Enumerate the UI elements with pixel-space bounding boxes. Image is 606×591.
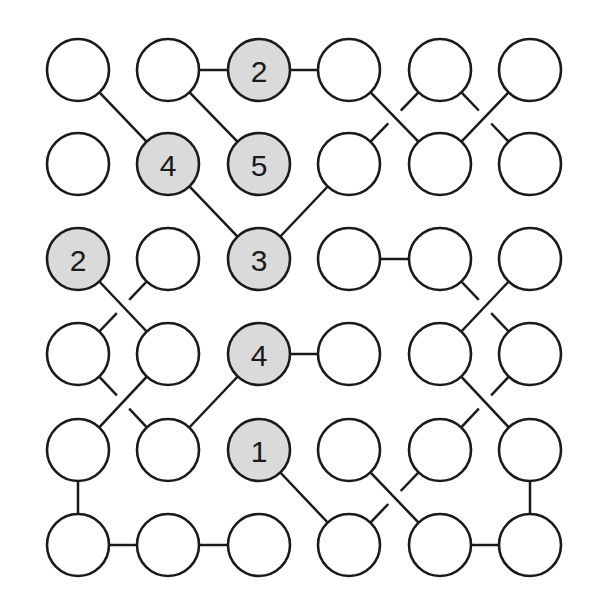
empty-node[interactable] xyxy=(47,323,109,385)
node-circle[interactable] xyxy=(409,39,471,101)
node-circle[interactable] xyxy=(137,39,199,101)
clue-node[interactable]: 1 xyxy=(228,419,290,481)
clue-node[interactable]: 4 xyxy=(228,323,290,385)
empty-node[interactable] xyxy=(499,419,561,481)
node-circle[interactable] xyxy=(499,514,561,576)
empty-node[interactable] xyxy=(318,514,380,576)
empty-node[interactable] xyxy=(499,228,561,290)
node-circle[interactable] xyxy=(318,228,380,290)
node-circle[interactable] xyxy=(499,39,561,101)
node-circle[interactable] xyxy=(318,419,380,481)
bridge-edge xyxy=(189,186,237,236)
clue-node[interactable]: 2 xyxy=(228,39,290,101)
clue-node[interactable]: 4 xyxy=(137,133,199,195)
empty-node[interactable] xyxy=(47,419,109,481)
clue-number: 5 xyxy=(251,149,268,182)
clue-number: 4 xyxy=(251,339,268,372)
empty-node[interactable] xyxy=(47,39,109,101)
empty-node[interactable] xyxy=(137,39,199,101)
node-circle[interactable] xyxy=(47,133,109,195)
bridge-edge xyxy=(280,187,327,237)
clue-number: 2 xyxy=(70,244,87,277)
node-circle[interactable] xyxy=(499,228,561,290)
empty-node[interactable] xyxy=(318,133,380,195)
node-circle[interactable] xyxy=(137,514,199,576)
empty-node[interactable] xyxy=(409,323,471,385)
node-circle[interactable] xyxy=(318,133,380,195)
clue-number: 4 xyxy=(160,149,177,182)
node-circle[interactable] xyxy=(47,323,109,385)
empty-node[interactable] xyxy=(47,133,109,195)
node-circle[interactable] xyxy=(137,228,199,290)
node-circle[interactable] xyxy=(409,514,471,576)
empty-node[interactable] xyxy=(409,133,471,195)
empty-node[interactable] xyxy=(499,133,561,195)
empty-node[interactable] xyxy=(228,514,290,576)
empty-node[interactable] xyxy=(318,419,380,481)
empty-node[interactable] xyxy=(409,39,471,101)
node-circle[interactable] xyxy=(409,133,471,195)
clue-node[interactable]: 2 xyxy=(47,228,109,290)
bridge-edge xyxy=(190,92,238,141)
node-circle[interactable] xyxy=(137,419,199,481)
bridge-edge xyxy=(280,473,327,523)
clue-node[interactable]: 5 xyxy=(228,133,290,195)
empty-node[interactable] xyxy=(499,323,561,385)
node-circle[interactable] xyxy=(318,39,380,101)
node-circle[interactable] xyxy=(228,514,290,576)
empty-node[interactable] xyxy=(318,323,380,385)
node-circle[interactable] xyxy=(137,323,199,385)
node-circle[interactable] xyxy=(47,419,109,481)
empty-node[interactable] xyxy=(137,323,199,385)
clue-node[interactable]: 3 xyxy=(228,228,290,290)
node-circle[interactable] xyxy=(318,323,380,385)
bridge-edge xyxy=(189,376,237,427)
empty-node[interactable] xyxy=(409,419,471,481)
empty-node[interactable] xyxy=(137,228,199,290)
clue-number: 2 xyxy=(251,55,268,88)
node-circle[interactable] xyxy=(47,514,109,576)
node-circle[interactable] xyxy=(499,419,561,481)
node-circle[interactable] xyxy=(409,419,471,481)
node-circle[interactable] xyxy=(409,228,471,290)
node-circle[interactable] xyxy=(47,39,109,101)
puzzle-board: 2452341 xyxy=(0,0,606,591)
empty-node[interactable] xyxy=(137,514,199,576)
empty-node[interactable] xyxy=(499,39,561,101)
node-circle[interactable] xyxy=(318,514,380,576)
node-circle[interactable] xyxy=(499,133,561,195)
empty-node[interactable] xyxy=(499,514,561,576)
clue-number: 3 xyxy=(251,244,268,277)
empty-node[interactable] xyxy=(47,514,109,576)
node-circle[interactable] xyxy=(499,323,561,385)
empty-node[interactable] xyxy=(409,228,471,290)
empty-node[interactable] xyxy=(318,39,380,101)
node-circle[interactable] xyxy=(409,323,471,385)
bridge-edge xyxy=(99,92,146,141)
empty-node[interactable] xyxy=(409,514,471,576)
empty-node[interactable] xyxy=(137,419,199,481)
empty-node[interactable] xyxy=(318,228,380,290)
clue-number: 1 xyxy=(251,435,268,468)
